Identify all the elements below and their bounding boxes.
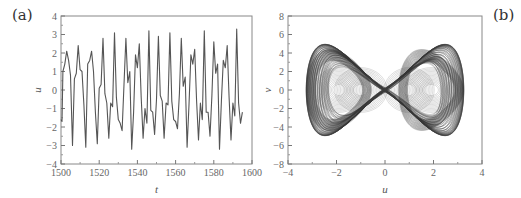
x-tick-label: −2 xyxy=(331,167,342,178)
time-series-line xyxy=(61,29,242,149)
y-tick-label: 0 xyxy=(279,85,284,96)
x-tick-label: 4 xyxy=(480,167,485,178)
y-tick-label: −8 xyxy=(273,159,284,170)
y-tick-label: −2 xyxy=(273,103,284,114)
y-tick-label: 2 xyxy=(52,48,57,59)
y-tick-label: −2 xyxy=(46,122,57,133)
x-axis-label: u xyxy=(382,183,388,195)
x-tick-label: −4 xyxy=(283,167,294,178)
y-axis-label: v xyxy=(261,87,273,92)
y-tick-label: 3 xyxy=(52,29,57,40)
attractor-trajectory xyxy=(306,44,464,135)
plot-a: 150015201540156015801600−4−3−2−101234tu xyxy=(31,11,262,196)
y-tick-label: −4 xyxy=(273,122,284,133)
x-axis-label: t xyxy=(155,183,159,195)
x-tick-label: 1560 xyxy=(166,167,186,178)
y-tick-label: −4 xyxy=(46,159,57,170)
y-tick-label: 8 xyxy=(279,11,284,22)
y-tick-label: 2 xyxy=(279,66,284,77)
y-tick-label: 6 xyxy=(279,29,284,40)
y-tick-label: 0 xyxy=(52,85,57,96)
x-tick-label: 1600 xyxy=(242,167,262,178)
x-tick-label: 0 xyxy=(383,167,388,178)
x-tick-label: 1520 xyxy=(89,167,109,178)
x-tick-label: 1580 xyxy=(204,167,224,178)
y-axis-label: u xyxy=(31,87,43,93)
y-tick-label: −6 xyxy=(273,140,284,151)
figure-canvas: 150015201540156015801600−4−3−2−101234tu … xyxy=(0,0,521,198)
y-tick-label: 4 xyxy=(52,11,57,22)
y-tick-label: 1 xyxy=(52,66,57,77)
y-tick-label: −1 xyxy=(46,103,57,114)
plot-b: −4−2024−8−6−4−202468uv xyxy=(261,11,485,196)
y-tick-label: 4 xyxy=(279,48,284,59)
y-tick-label: −3 xyxy=(46,140,57,151)
x-tick-label: 2 xyxy=(431,167,436,178)
x-tick-label: 1540 xyxy=(127,167,147,178)
